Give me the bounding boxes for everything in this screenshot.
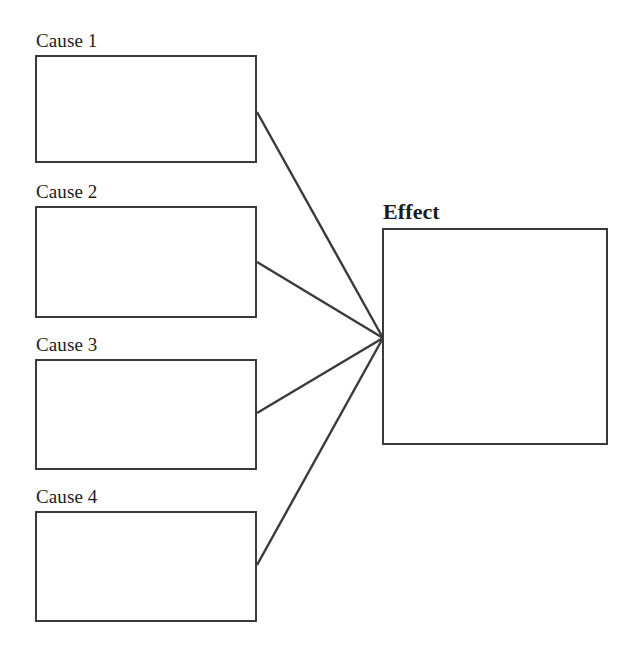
cause-3-box[interactable] bbox=[35, 359, 257, 470]
connector-2 bbox=[257, 262, 383, 338]
effect-box[interactable] bbox=[382, 228, 608, 445]
cause-2-box[interactable] bbox=[35, 206, 257, 318]
cause-1-box[interactable] bbox=[35, 55, 257, 163]
cause-2-label: Cause 2 bbox=[36, 182, 97, 201]
cause-3-label: Cause 3 bbox=[36, 335, 97, 354]
connector-lines bbox=[257, 112, 383, 565]
effect-label: Effect bbox=[383, 201, 440, 223]
connector-4 bbox=[257, 338, 383, 565]
cause-4-label: Cause 4 bbox=[36, 487, 97, 506]
connector-1 bbox=[257, 112, 383, 338]
diagram-canvas: Cause 1 Cause 2 Cause 3 Cause 4 Effect bbox=[0, 0, 638, 650]
cause-1-label: Cause 1 bbox=[36, 31, 97, 50]
cause-4-box[interactable] bbox=[35, 511, 257, 622]
connector-3 bbox=[257, 338, 383, 413]
